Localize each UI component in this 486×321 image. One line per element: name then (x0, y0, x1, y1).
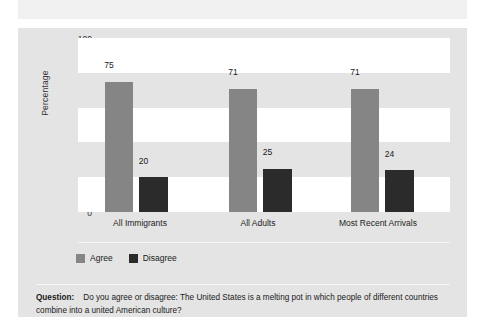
figure-panel: Percentage 100 80 60 40 20 0 75 20 71 25… (18, 28, 467, 317)
bar-value-agree-all-immigrants: 75 (95, 61, 123, 70)
legend-item-disagree[interactable]: Disagree (129, 254, 177, 263)
legend-swatch-disagree-icon (129, 254, 138, 263)
page-top-band (18, 0, 467, 19)
question-label: Question: (36, 293, 74, 302)
legend-swatch-agree-icon (76, 254, 85, 263)
bar-disagree-all-immigrants[interactable] (139, 177, 168, 212)
bar-value-disagree-most-recent-arrivals: 24 (375, 150, 404, 159)
bar-value-agree-all-adults: 71 (219, 68, 247, 77)
x-axis-label-most-recent-arrivals: Most Recent Arrivals (308, 218, 448, 228)
bar-disagree-all-adults[interactable] (263, 169, 292, 213)
question-text: Do you agree or disagree: The United Sta… (36, 293, 438, 315)
legend-label-agree: Agree (90, 254, 113, 263)
legend-divider (78, 242, 450, 243)
question-footer: Question:Do you agree or disagree: The U… (36, 292, 456, 317)
plot-area (78, 38, 450, 212)
x-axis-label-all-immigrants: All Immigrants (80, 218, 200, 228)
bar-disagree-most-recent-arrivals[interactable] (385, 170, 414, 212)
question-divider (36, 284, 450, 285)
legend-item-agree[interactable]: Agree (76, 254, 113, 263)
x-axis-label-all-adults: All Adults (208, 218, 308, 228)
bar-value-disagree-all-immigrants: 20 (129, 157, 158, 166)
y-axis-title: Percentage (40, 58, 50, 128)
chart-legend: Agree Disagree (76, 254, 177, 263)
grid-band-60-80 (78, 73, 450, 108)
bar-value-agree-most-recent-arrivals: 71 (341, 68, 369, 77)
bar-agree-all-immigrants[interactable] (105, 82, 133, 213)
legend-label-disagree: Disagree (143, 254, 177, 263)
bar-value-disagree-all-adults: 25 (253, 148, 282, 157)
